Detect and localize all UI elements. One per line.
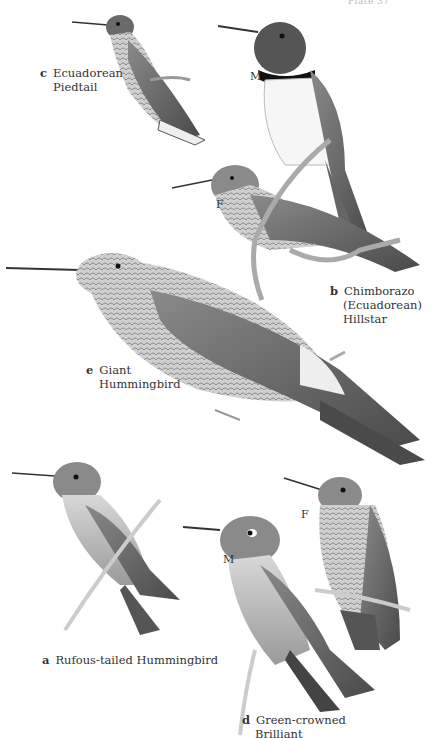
- label-chimborazo-hillstar: bChimborazo (Ecuadorean) Hillstar: [330, 284, 422, 326]
- label-green-crowned-brilliant: dGreen-crowned Brilliant: [242, 713, 346, 738]
- bird-chimborazo-hillstar-female: [172, 165, 420, 272]
- sex-label-female: F: [301, 508, 309, 521]
- label-ecuadorean-piedtail: cEcuadorean Piedtail: [40, 66, 123, 94]
- bird-rufous-tailed-hummingbird: [12, 462, 180, 635]
- sex-label-male: M: [223, 553, 234, 566]
- species-letter: c: [40, 66, 47, 80]
- sex-label-female: F: [216, 198, 224, 211]
- label-rufous-tailed-hummingbird: aRufous-tailed Hummingbird: [42, 653, 218, 667]
- label-giant-hummingbird: eGiant Hummingbird: [86, 363, 181, 391]
- hummingbird-illustrations: [0, 0, 443, 738]
- sex-label-male: M: [250, 70, 261, 83]
